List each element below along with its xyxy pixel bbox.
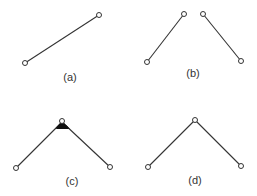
segment-right bbox=[62, 122, 110, 167]
panel-label: (c) bbox=[66, 175, 79, 187]
diagram-canvas: (a) (b) (c) (d) bbox=[0, 0, 257, 196]
segment-left bbox=[148, 120, 195, 167]
panel-label: (b) bbox=[186, 67, 199, 79]
vertex-circle-icon bbox=[182, 12, 187, 17]
vertex-circle-icon bbox=[239, 59, 244, 64]
panel-d: (d) bbox=[146, 118, 244, 187]
vertex-circle-icon bbox=[145, 60, 150, 65]
panel-label: (a) bbox=[63, 71, 76, 83]
segment-left bbox=[147, 14, 184, 62]
segment-right bbox=[195, 120, 241, 166]
vertex-circle-icon bbox=[60, 119, 65, 124]
vertex-circle-icon bbox=[14, 166, 19, 171]
vertex-circle-icon bbox=[23, 61, 28, 66]
panel-c: (c) bbox=[14, 119, 113, 188]
panel-label: (d) bbox=[188, 174, 201, 186]
vertex-circle-icon bbox=[193, 118, 198, 123]
segment-right bbox=[203, 14, 241, 61]
vertex-circle-icon bbox=[97, 13, 102, 18]
joint-arc-icon bbox=[56, 125, 69, 129]
panel-b: (b) bbox=[145, 12, 244, 80]
vertex-circle-icon bbox=[201, 12, 206, 17]
vertex-circle-icon bbox=[108, 165, 113, 170]
vertex-circle-icon bbox=[146, 165, 151, 170]
segment bbox=[25, 15, 99, 63]
panel-a: (a) bbox=[23, 13, 102, 84]
vertex-circle-icon bbox=[239, 164, 244, 169]
